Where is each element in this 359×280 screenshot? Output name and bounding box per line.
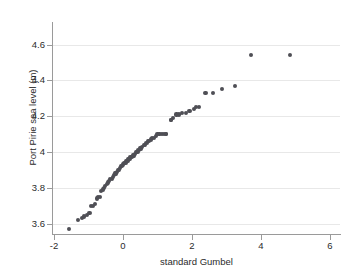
gridline	[52, 45, 340, 46]
gridline	[52, 80, 340, 81]
y-axis-tick-label: 4	[40, 147, 45, 157]
graph-region: 3.63.844.24.44.6 -20246 standard Gumbel …	[0, 0, 359, 280]
scatter-point	[203, 91, 207, 95]
scatter-point	[98, 195, 102, 199]
x-axis-tick-label: 2	[180, 241, 204, 251]
x-axis-tick-label: -2	[42, 241, 66, 251]
x-axis-line	[52, 234, 341, 235]
y-axis-tick-label: 3.6	[32, 219, 45, 229]
gridline	[52, 224, 340, 225]
gridline	[52, 116, 340, 117]
y-axis-tick	[47, 152, 52, 153]
x-axis-tick-label: 0	[111, 241, 135, 251]
y-axis-tick	[47, 116, 52, 117]
scatter-point	[187, 109, 191, 113]
y-axis-tick	[47, 45, 52, 46]
x-axis-tick-label: 6	[318, 241, 342, 251]
x-axis-title: standard Gumbel	[52, 256, 341, 267]
gridline	[52, 152, 340, 153]
scatter-point	[233, 84, 237, 88]
y-axis-tick	[47, 80, 52, 81]
screenshot-root: 3.63.844.24.44.6 -20246 standard Gumbel …	[0, 0, 359, 280]
y-axis-line	[52, 22, 53, 235]
y-axis-tick	[47, 188, 52, 189]
y-axis-title: Port Pirie sea level (m)	[27, 23, 38, 213]
scatter-point	[87, 211, 91, 215]
gridline	[52, 188, 340, 189]
x-axis-tick-label: 4	[249, 241, 273, 251]
y-axis-tick	[47, 224, 52, 225]
